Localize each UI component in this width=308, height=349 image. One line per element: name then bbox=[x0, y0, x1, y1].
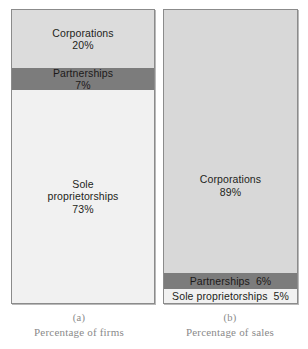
segment-label: Sole proprietorships bbox=[172, 290, 267, 302]
panel-b-caption-tag: (b) bbox=[152, 311, 308, 324]
segment-sole-proprietorships-sales: Sole proprietorships 5% bbox=[164, 289, 297, 303]
segment-label: Corporations bbox=[52, 27, 113, 40]
panel-percentage-of-firms: Corporations 20% Partnerships 7% Sole pr… bbox=[0, 0, 158, 349]
segment-sole-proprietorships-firms: Sole proprietorships 73% bbox=[12, 90, 154, 303]
segment-partnerships-sales: Partnerships 6% bbox=[164, 273, 297, 289]
stacked-bar-firms: Corporations 20% Partnerships 7% Sole pr… bbox=[11, 9, 155, 304]
panel-percentage-of-sales: Corporations 89% Partnerships 6% Sole pr… bbox=[152, 0, 308, 349]
panel-b-caption-text: Percentage of sales bbox=[152, 326, 308, 339]
segment-label: Partnerships bbox=[53, 67, 113, 80]
stacked-bar-figure: Corporations 20% Partnerships 7% Sole pr… bbox=[0, 0, 308, 349]
panel-a-caption-text: Percentage of firms bbox=[0, 326, 158, 339]
segment-label-line1: Sole bbox=[48, 178, 119, 191]
stacked-bar-sales: Corporations 89% Partnerships 6% Sole pr… bbox=[163, 9, 298, 304]
segment-value: 20% bbox=[52, 39, 113, 52]
segment-label: Corporations bbox=[200, 173, 261, 186]
segment-corporations-firms: Corporations 20% bbox=[12, 10, 154, 68]
segment-value: 73% bbox=[48, 203, 119, 216]
segment-label: Partnerships bbox=[190, 275, 250, 287]
segment-value: 89% bbox=[200, 186, 261, 199]
segment-value: 6% bbox=[256, 275, 271, 287]
segment-value: 5% bbox=[274, 290, 289, 302]
segment-partnerships-firms: Partnerships 7% bbox=[12, 68, 154, 90]
segment-label-line2: proprietorships bbox=[48, 190, 119, 203]
segment-corporations-sales: Corporations 89% bbox=[164, 10, 297, 273]
panel-a-caption-tag: (a) bbox=[0, 311, 158, 324]
